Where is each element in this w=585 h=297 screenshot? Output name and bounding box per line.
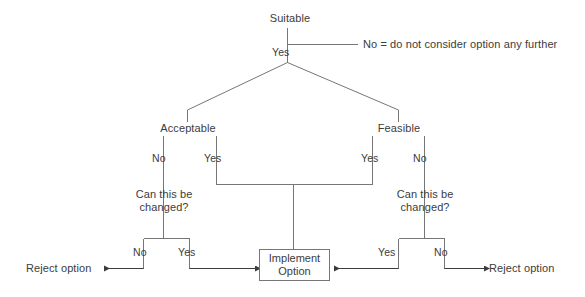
edge-label-suitable-yes: Yes: [272, 46, 289, 58]
edge-label-right-change-yes: Yes: [378, 246, 395, 258]
terminal-right-reject-option: Reject option: [489, 262, 555, 275]
edge-fork-left: [188, 63, 288, 111]
edge-label-right-change-no: No: [434, 246, 448, 258]
node-left-can-this-be-changed: Can this be changed?: [116, 188, 212, 214]
node-implement-option: Implement Option: [259, 249, 330, 281]
edge-label-left-change-no: No: [133, 246, 147, 258]
edge-label-acceptable-no: No: [152, 152, 166, 164]
implement-option-line1: Implement: [269, 252, 320, 265]
node-suitable: Suitable: [268, 12, 312, 25]
edge-fork-right: [288, 63, 399, 111]
node-right-can-this-be-changed: Can this be changed?: [377, 188, 473, 214]
node-acceptable: Acceptable: [154, 122, 222, 135]
edge-label-left-change-yes: Yes: [178, 246, 195, 258]
flowchart-canvas: Suitable Acceptable Feasible Can this be…: [0, 0, 585, 297]
node-feasible: Feasible: [372, 122, 426, 135]
implement-option-line2: Option: [278, 265, 310, 278]
edge-label-feasible-yes: Yes: [361, 152, 378, 164]
edge-label-feasible-no: No: [413, 152, 427, 164]
edge-label-acceptable-yes: Yes: [204, 152, 221, 164]
terminal-left-reject-option: Reject option: [26, 262, 92, 275]
note-suitable-no: No = do not consider option any further: [363, 38, 557, 51]
